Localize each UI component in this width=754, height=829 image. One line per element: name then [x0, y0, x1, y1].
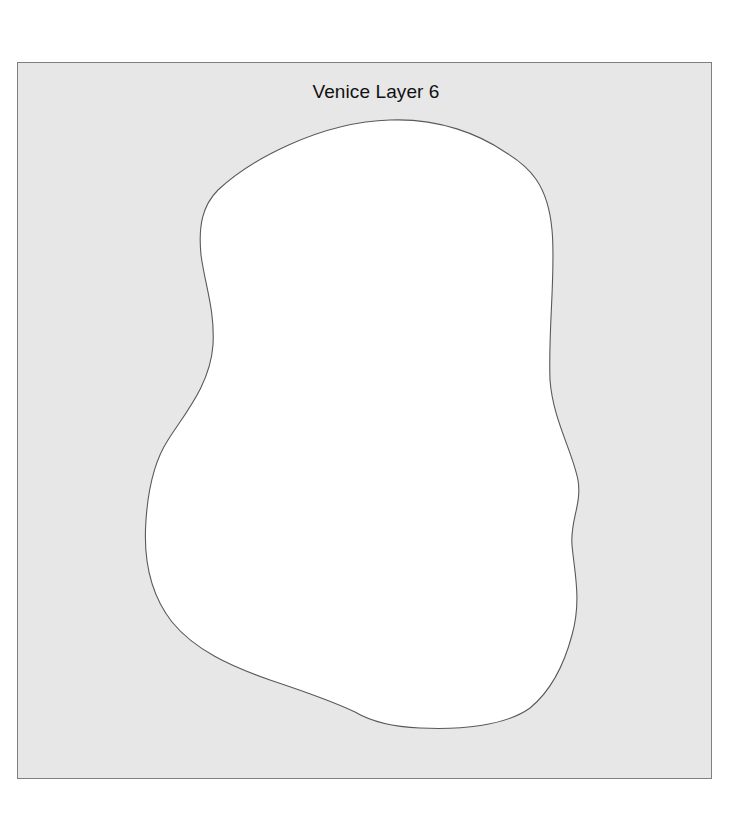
blob-shape [0, 0, 754, 829]
blob-outline [145, 120, 578, 729]
diagram-title-text: Venice Layer 6 [312, 81, 439, 102]
diagram-title: Venice Layer 6 [0, 81, 754, 103]
